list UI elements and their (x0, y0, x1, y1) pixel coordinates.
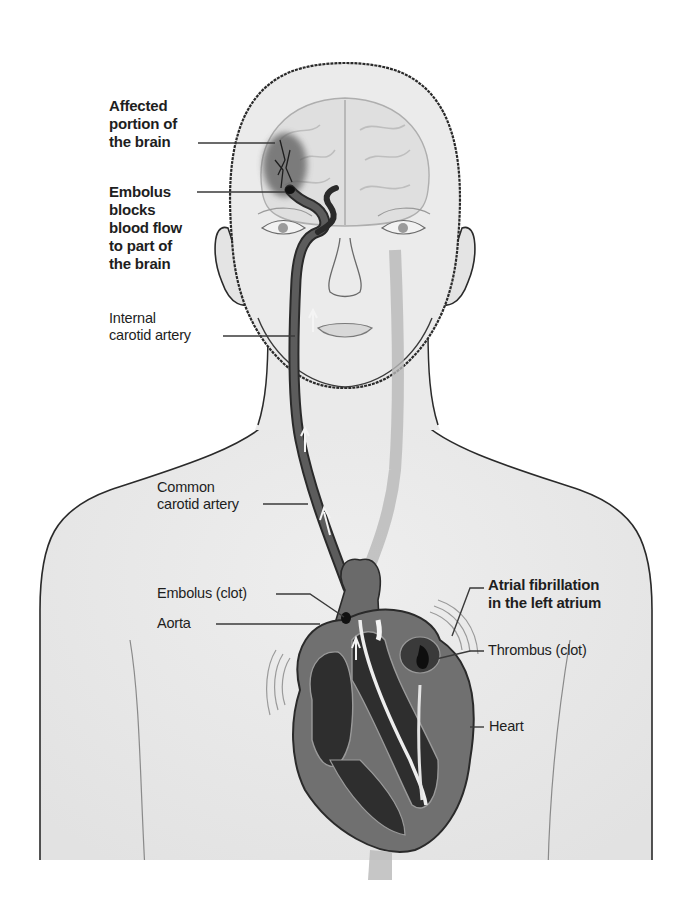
label-thrombus-clot: Thrombus (clot) (488, 642, 587, 659)
label-aorta: Aorta (157, 615, 191, 632)
label-embolus-blocks-flow: Embolus blocks blood flow to part of the… (109, 183, 182, 273)
head (215, 63, 475, 388)
embolus-icon (341, 612, 351, 624)
label-heart: Heart (489, 718, 523, 735)
label-internal-carotid-artery: Internal carotid artery (109, 310, 191, 344)
stroke-anatomy-illustration (0, 0, 692, 904)
label-embolus-clot: Embolus (clot) (157, 585, 247, 602)
label-affected-brain: Affected portion of the brain (109, 97, 177, 151)
label-atrial-fibrillation: Atrial fibrillation in the left atrium (488, 576, 601, 612)
label-common-carotid-artery: Common carotid artery (157, 479, 239, 513)
